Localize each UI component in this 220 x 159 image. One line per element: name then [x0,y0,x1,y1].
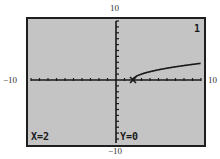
graph-plot [28,19,204,145]
ymin-label: −10 [108,147,122,156]
x-coordinate-readout: X=2 [31,132,49,142]
calculator-screen: 1 X=2 Y=0 [26,17,206,147]
y-coordinate-readout: Y=0 [120,132,138,142]
ymax-label: 10 [110,4,119,13]
xmax-label: 10 [208,76,217,85]
xmin-label: −10 [3,76,17,85]
function-curve [133,63,201,80]
graph-number-indicator: 1 [194,24,200,34]
